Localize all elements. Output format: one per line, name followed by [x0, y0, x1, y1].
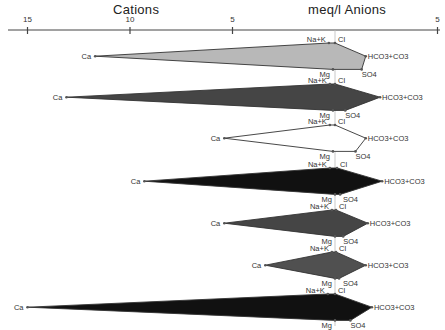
axis-tick-label: 5	[230, 15, 235, 24]
label-so4: SO4	[356, 152, 371, 161]
label-mg: Mg	[322, 321, 332, 330]
label-cl: Cl	[339, 202, 346, 211]
label-na-k: Na+K	[310, 244, 329, 253]
data-point-marker	[332, 68, 335, 71]
data-point-marker	[331, 251, 334, 254]
stiff-polygon	[66, 84, 380, 110]
label-cl: Cl	[339, 244, 346, 253]
stiff-polygon	[265, 252, 365, 278]
data-point-marker	[332, 150, 335, 153]
data-point-marker	[334, 277, 337, 280]
label-cl: Cl	[340, 160, 347, 169]
data-point-marker	[364, 137, 367, 140]
stiff-polygon	[224, 125, 365, 151]
data-point-marker	[335, 251, 338, 254]
data-point-marker	[367, 222, 370, 225]
stiff-diagram-6: Na+KClCaHCO3+CO3MgSO4	[252, 244, 409, 288]
data-point-marker	[94, 55, 97, 58]
axis-tick-label: 15	[23, 15, 32, 24]
stiff-diagram-chart: 151055 Na+KClCaHCO3+CO3MgSO4Na+KClCaHCO3…	[0, 0, 445, 330]
data-point-marker	[335, 209, 338, 212]
label-so4: SO4	[345, 111, 360, 120]
stiff-polygon	[95, 43, 366, 69]
data-point-marker	[329, 83, 332, 86]
label-hco3-co3: HCO3+CO3	[368, 261, 409, 270]
data-point-marker	[328, 42, 331, 45]
data-point-marker	[329, 124, 332, 127]
stiff-polygon	[224, 210, 367, 236]
label-cl: Cl	[338, 76, 345, 85]
data-point-marker	[338, 277, 341, 280]
data-point-marker	[334, 124, 337, 127]
data-point-marker	[334, 235, 337, 238]
data-point-marker	[371, 306, 374, 309]
label-cl: Cl	[338, 286, 345, 295]
data-point-marker	[364, 55, 367, 58]
label-ca: Ca	[14, 303, 24, 312]
label-ca: Ca	[211, 219, 221, 228]
label-hco3-co3: HCO3+CO3	[384, 177, 425, 186]
label-ca: Ca	[211, 134, 221, 143]
stiff-diagrams: Na+KClCaHCO3+CO3MgSO4Na+KClCaHCO3+CO3MgS…	[14, 35, 425, 330]
stiff-polygon	[144, 168, 382, 194]
stiff-polygon	[28, 294, 372, 320]
data-point-marker	[223, 222, 226, 225]
data-point-marker	[65, 96, 68, 99]
stiff-diagram-7: Na+KClCaHCO3+CO3MgSO4	[14, 286, 415, 330]
data-point-marker	[327, 293, 330, 296]
label-ca: Ca	[53, 93, 63, 102]
data-point-marker	[264, 264, 267, 267]
stiff-diagram-5: Na+KClCaHCO3+CO3MgSO4	[211, 202, 411, 246]
label-so4: SO4	[362, 70, 377, 79]
label-cl: Cl	[338, 35, 345, 44]
data-point-marker	[329, 167, 332, 170]
label-na-k: Na+K	[306, 286, 325, 295]
data-point-marker	[143, 180, 146, 183]
label-so4: SO4	[350, 321, 365, 330]
label-so4: SO4	[343, 279, 358, 288]
data-point-marker	[379, 96, 382, 99]
data-point-marker	[334, 319, 337, 322]
data-point-marker	[334, 293, 337, 296]
axis-tick-label: 10	[126, 15, 135, 24]
data-point-marker	[334, 42, 337, 45]
label-ca: Ca	[252, 261, 262, 270]
label-na-k: Na+K	[307, 35, 326, 44]
data-point-marker	[223, 137, 226, 140]
data-point-marker	[334, 193, 337, 196]
label-cl: Cl	[338, 117, 345, 126]
data-point-marker	[336, 167, 339, 170]
stiff-diagram-4: Na+KClCaHCO3+CO3MgSO4	[131, 160, 425, 204]
label-hco3-co3: HCO3+CO3	[370, 219, 411, 228]
label-na-k: Na+K	[308, 76, 327, 85]
data-point-marker	[334, 83, 337, 86]
data-point-marker	[26, 306, 29, 309]
label-hco3-co3: HCO3+CO3	[382, 93, 423, 102]
data-point-marker	[339, 193, 342, 196]
label-na-k: Na+K	[308, 117, 327, 126]
label-ca: Ca	[82, 52, 92, 61]
label-hco3-co3: HCO3+CO3	[374, 303, 415, 312]
data-point-marker	[332, 109, 335, 112]
label-hco3-co3: HCO3+CO3	[368, 134, 409, 143]
data-point-marker	[331, 209, 334, 212]
data-point-marker	[381, 180, 384, 183]
label-na-k: Na+K	[310, 202, 329, 211]
label-ca: Ca	[131, 177, 141, 186]
axis-tick-label: 5	[435, 15, 440, 24]
stiff-diagram-2: Na+KClCaHCO3+CO3MgSO4	[53, 76, 423, 120]
label-hco3-co3: HCO3+CO3	[368, 52, 409, 61]
label-na-k: Na+K	[308, 160, 327, 169]
stiff-diagram-3: Na+KClCaHCO3+CO3MgSO4	[211, 117, 409, 161]
stiff-diagram-1: Na+KClCaHCO3+CO3MgSO4	[82, 35, 409, 79]
data-point-marker	[364, 264, 367, 267]
